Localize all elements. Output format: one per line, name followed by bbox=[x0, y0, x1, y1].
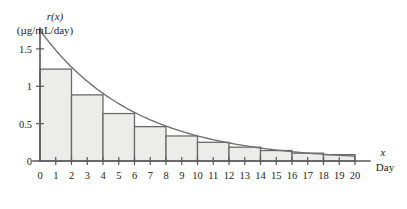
y-tick-label: 0.5 bbox=[19, 119, 32, 130]
x-tick-label: 0 bbox=[37, 170, 42, 181]
y-axis-label-units: (µg/mL/day) bbox=[17, 24, 74, 37]
x-axis-tick-labels: 01234567891011121314151617181920 bbox=[37, 170, 360, 181]
x-tick-label: 15 bbox=[271, 170, 282, 181]
x-tick-label: 7 bbox=[148, 170, 153, 181]
x-tick-label: 10 bbox=[192, 170, 203, 181]
x-tick-label: 20 bbox=[350, 170, 361, 181]
x-tick-label: 5 bbox=[116, 170, 121, 181]
x-tick-label: 17 bbox=[303, 170, 314, 181]
x-tick-label: 18 bbox=[318, 170, 329, 181]
x-tick-label: 1 bbox=[53, 170, 58, 181]
y-tick-label: 1.5 bbox=[19, 44, 32, 55]
y-axis-label-function: r(x) bbox=[47, 10, 64, 23]
chart-container: 00.511.5 0123456789101112131415161718192… bbox=[0, 0, 407, 209]
x-axis-label-symbol: x bbox=[380, 146, 386, 158]
x-tick-label: 12 bbox=[224, 170, 235, 181]
bar-rect bbox=[135, 127, 167, 161]
y-tick-label: 0 bbox=[27, 156, 32, 167]
x-tick-label: 16 bbox=[287, 170, 298, 181]
bar-rect bbox=[103, 114, 135, 161]
bar-series bbox=[40, 69, 355, 161]
x-tick-label: 14 bbox=[255, 170, 266, 181]
bar-rect bbox=[72, 95, 104, 161]
x-axis-label-name: Day bbox=[376, 161, 395, 173]
x-tick-label: 9 bbox=[179, 170, 184, 181]
x-tick-label: 13 bbox=[240, 170, 251, 181]
x-tick-label: 6 bbox=[132, 170, 137, 181]
x-tick-label: 19 bbox=[334, 170, 345, 181]
x-tick-label: 3 bbox=[85, 170, 90, 181]
x-tick-label: 4 bbox=[100, 170, 106, 181]
x-tick-label: 11 bbox=[208, 170, 218, 181]
y-axis-tick-labels: 00.511.5 bbox=[19, 44, 32, 167]
bar-rect bbox=[40, 69, 72, 161]
x-tick-label: 2 bbox=[69, 170, 74, 181]
y-tick-label: 1 bbox=[27, 81, 32, 92]
x-tick-label: 8 bbox=[163, 170, 168, 181]
riemann-sum-chart: 00.511.5 0123456789101112131415161718192… bbox=[0, 0, 407, 209]
